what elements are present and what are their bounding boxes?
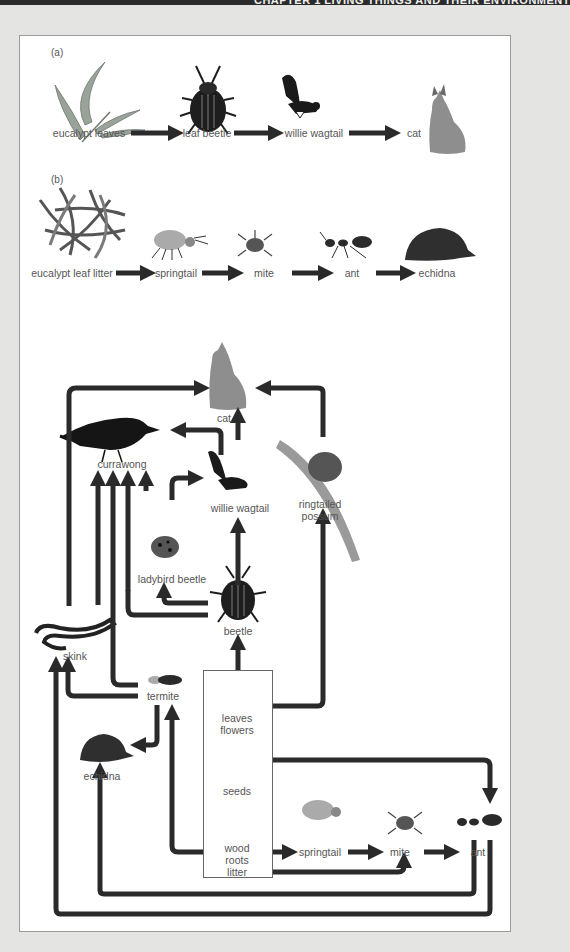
web-springtail-icon	[302, 800, 341, 820]
web-label-ant: ant	[471, 846, 486, 858]
springtail-icon	[152, 230, 208, 260]
web-echidna-icon	[80, 734, 134, 762]
eucalypt-leaf-litter-icon	[40, 188, 125, 258]
web-label-springtail: springtail	[299, 846, 341, 858]
ant-icon	[320, 232, 372, 258]
label-mite: mite	[254, 267, 274, 279]
web-ant-icon	[457, 814, 502, 826]
producer-label-leaves-flowers: leaves flowers	[220, 712, 253, 736]
web-label-cat: cat	[217, 412, 231, 424]
web-label-ringtailed-possum: ringtailed possum	[299, 498, 342, 522]
web-label-termite: termite	[147, 690, 179, 702]
web-label-ladybird-beetle: ladybird beetle	[138, 573, 206, 585]
label-willie-wagtail: willie wagtail	[285, 127, 343, 139]
web-label-willie-wagtail: willie wagtail	[211, 502, 269, 514]
web-label-beetle: beetle	[224, 625, 253, 637]
label-leaf-beetle: leaf beetle	[183, 127, 231, 139]
web-label-currawong: currawong	[97, 458, 146, 470]
currawong-icon	[60, 418, 160, 462]
web-label-mite: mite	[390, 846, 410, 858]
cat-icon	[429, 84, 465, 154]
leaf-beetle-icon	[180, 66, 236, 134]
chain-b-label: (b)	[51, 174, 63, 185]
producer-label-seeds: seeds	[223, 785, 251, 797]
termite-icon	[148, 675, 182, 685]
willie-wagtail-icon	[282, 75, 320, 118]
label-cat: cat	[407, 127, 421, 139]
mite-icon	[238, 230, 272, 256]
label-ant: ant	[345, 267, 360, 279]
web-label-echidna: echidna	[84, 770, 121, 782]
skink-icon	[36, 620, 114, 648]
web-willie-wagtail-icon	[208, 451, 248, 490]
chain-a-label: (a)	[51, 47, 63, 58]
producer-label-wood-roots-litter: wood roots litter	[224, 842, 249, 878]
web-cat-icon	[209, 342, 246, 410]
web-label-skink: skink	[63, 650, 87, 662]
label-echidna: echidna	[419, 267, 456, 279]
label-springtail: springtail	[155, 267, 197, 279]
label-eucalypt-leaves: eucalypt leaves	[53, 127, 125, 139]
web-mite-icon	[388, 812, 422, 834]
label-eucalypt-leaf-litter: eucalypt leaf litter	[31, 267, 113, 279]
ladybird-beetle-icon	[151, 536, 179, 558]
food-web-diagram	[0, 0, 570, 952]
echidna-icon	[405, 228, 476, 261]
